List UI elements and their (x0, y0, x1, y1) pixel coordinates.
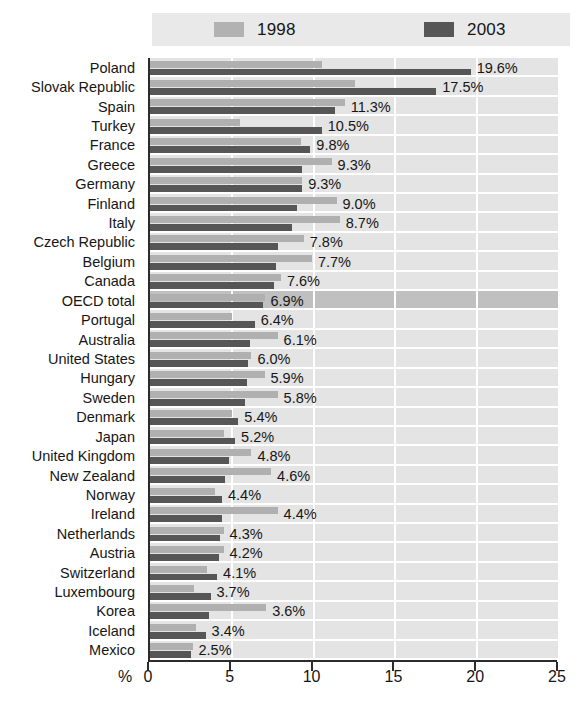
row-separator (150, 250, 559, 252)
bar-1998 (150, 197, 337, 204)
bar-value-label: 17.5% (442, 80, 483, 94)
row-separator (150, 114, 559, 116)
plot-area: 19.6%17.5%11.3%10.5%9.8%9.3%9.3%9.0%8.7%… (148, 58, 559, 660)
bar-1998 (150, 507, 278, 514)
legend-entry-1998[interactable]: 1998 (214, 13, 296, 46)
row-separator (150, 619, 559, 621)
bar-value-label: 9.3% (338, 158, 371, 172)
bar-1998 (150, 371, 265, 378)
bar-1998 (150, 643, 193, 650)
bar-value-label: 4.4% (284, 507, 317, 521)
row-separator (150, 153, 559, 155)
legend-entry-2003[interactable]: 2003 (424, 13, 506, 46)
row-separator (150, 328, 559, 330)
row-separator (150, 134, 559, 136)
bar-value-label: 7.7% (318, 255, 351, 269)
bar-1998 (150, 332, 278, 339)
bar-value-label: 3.7% (217, 585, 250, 599)
bar-value-label: 3.4% (212, 624, 245, 638)
chart-legend: 1998 2003 (152, 13, 570, 46)
category-label: Finland (0, 197, 135, 211)
category-label: Austria (0, 546, 135, 560)
category-label: Slovak Republic (0, 80, 135, 94)
category-label: Spain (0, 100, 135, 114)
row-separator (150, 270, 559, 272)
category-label: Poland (0, 61, 135, 75)
bar-1998 (150, 158, 332, 165)
bar-1998 (150, 235, 304, 242)
legend-label-1998: 1998 (257, 20, 296, 40)
bar-value-label: 8.7% (346, 216, 379, 230)
legend-swatch-1998-icon (214, 22, 244, 37)
bar-value-label: 7.8% (310, 235, 343, 249)
bar-value-label: 3.6% (272, 604, 305, 618)
category-label: Germany (0, 177, 135, 191)
bar-1998 (150, 119, 240, 126)
bar-1998 (150, 352, 251, 359)
axis-tick-label: 5 (225, 668, 234, 686)
bar-1998 (150, 255, 312, 262)
row-separator (150, 386, 559, 388)
row-separator (150, 347, 559, 349)
bar-1998 (150, 138, 301, 145)
category-label: Japan (0, 430, 135, 444)
row-separator (150, 600, 559, 602)
row-separator (150, 231, 559, 233)
axis-tick-label: 0 (144, 668, 153, 686)
category-label: Hungary (0, 371, 135, 385)
row-separator (150, 308, 559, 310)
row-separator (150, 211, 559, 213)
row-separator (150, 425, 559, 427)
bar-value-label: 5.8% (284, 391, 317, 405)
bar-value-label: 2.5% (199, 643, 232, 657)
bar-value-label: 9.8% (316, 138, 349, 152)
row-separator (150, 367, 559, 369)
bar-1998 (150, 294, 265, 301)
bar-value-label: 4.2% (230, 546, 263, 560)
legend-label-2003: 2003 (467, 20, 506, 40)
category-label: Switzerland (0, 566, 135, 580)
bar-chart: 1998 2003 PolandSlovak RepublicSpainTurk… (0, 0, 578, 714)
bar-value-label: 11.3% (351, 100, 391, 114)
row-separator (150, 522, 559, 524)
gridline (313, 58, 315, 660)
legend-swatch-2003-icon (424, 22, 454, 37)
bar-1998 (150, 527, 224, 534)
bar-1998 (150, 449, 251, 456)
category-label: Italy (0, 216, 135, 230)
row-separator (150, 541, 559, 543)
bar-value-label: 6.9% (271, 294, 304, 308)
category-label: Ireland (0, 507, 135, 521)
bar-value-label: 4.4% (228, 488, 261, 502)
bar-value-label: 4.1% (223, 566, 256, 580)
row-separator (150, 639, 559, 641)
bar-1998 (150, 80, 355, 87)
axis-tick-label: 25 (548, 668, 566, 686)
category-label: Denmark (0, 410, 135, 424)
category-label: OECD total (0, 294, 135, 308)
bar-1998 (150, 274, 281, 281)
bar-value-label: 7.6% (287, 274, 320, 288)
row-separator (150, 503, 559, 505)
category-label: Mexico (0, 643, 135, 657)
bar-value-label: 6.4% (261, 313, 294, 327)
category-label: United States (0, 352, 135, 366)
bar-1998 (150, 410, 232, 417)
bar-value-label: 4.8% (257, 449, 290, 463)
bar-value-label: 4.3% (230, 527, 263, 541)
category-label: Greece (0, 158, 135, 172)
bar-1998 (150, 585, 194, 592)
value-axis-tick-labels: 0510152025 (0, 668, 578, 692)
category-label: New Zealand (0, 469, 135, 483)
bar-1998 (150, 177, 302, 184)
bar-1998 (150, 216, 340, 223)
category-label: France (0, 138, 135, 152)
bar-value-label: 4.6% (277, 469, 310, 483)
bar-1998 (150, 468, 271, 475)
row-separator (150, 289, 559, 291)
category-label: Sweden (0, 391, 135, 405)
row-separator (150, 561, 559, 563)
bar-value-label: 5.2% (241, 430, 274, 444)
bar-1998 (150, 430, 224, 437)
row-separator (150, 95, 559, 97)
